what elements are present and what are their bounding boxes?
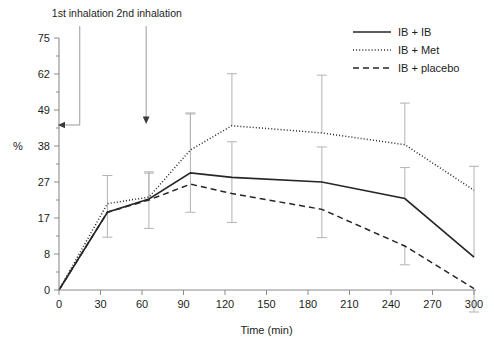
second-inhalation-arrowhead — [143, 117, 150, 125]
y-tick-label: 49 — [38, 104, 50, 116]
x-tick-label: 60 — [136, 298, 148, 310]
legend-label-2: IB + placebo — [398, 62, 459, 74]
y-tick-label: 17 — [38, 212, 50, 224]
x-tick-label: 300 — [465, 298, 483, 310]
first-inhalation-label: 1st inhalation — [52, 7, 114, 19]
y-tick-label: 38 — [38, 140, 50, 152]
y-tick-label: 75 — [38, 32, 50, 44]
annotations-group: 1st inhalation2nd inhalation — [52, 7, 182, 128]
x-tick-label: 270 — [423, 298, 441, 310]
first-inhalation-arrow-line — [58, 26, 80, 125]
y-tick-label: 62 — [38, 68, 50, 80]
y-tick-label: 0 — [44, 284, 50, 296]
chart-canvas: 0817273849627503060901201501802102402703… — [0, 0, 494, 343]
series-group — [59, 126, 474, 290]
axes-group — [54, 38, 476, 295]
x-tick-label: 150 — [257, 298, 275, 310]
legend-label-0: IB + IB — [398, 26, 431, 38]
x-tick-label: 0 — [56, 298, 62, 310]
x-tick-label: 90 — [177, 298, 189, 310]
chart-figure: 0817273849627503060901201501802102402703… — [0, 0, 494, 343]
legend-label-1: IB + Met — [398, 44, 439, 56]
x-tick-label: 120 — [216, 298, 234, 310]
second-inhalation-label: 2nd inhalation — [116, 7, 182, 19]
series-line-dashed — [59, 184, 474, 290]
y-tick-label: 27 — [38, 176, 50, 188]
x-tick-label: 180 — [299, 298, 317, 310]
series-line-solid — [59, 173, 474, 290]
x-tick-label: 240 — [382, 298, 400, 310]
x-axis-title: Time (min) — [240, 324, 292, 336]
y-axis-title: % — [13, 140, 23, 152]
x-tick-label: 210 — [340, 298, 358, 310]
x-tick-label: 30 — [94, 298, 106, 310]
legend-group: IB + IBIB + MetIB + placebo — [353, 26, 459, 74]
y-tick-label: 8 — [44, 248, 50, 260]
